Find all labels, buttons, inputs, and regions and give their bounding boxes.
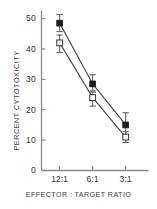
y-tick-label: 0 bbox=[31, 165, 36, 175]
data-point-filled-square bbox=[57, 20, 63, 26]
x-axis-title: EFFECTOR : TARGET RATIO bbox=[0, 190, 157, 199]
y-tick-label: 50 bbox=[26, 13, 36, 23]
x-tick-label: 6:1 bbox=[87, 174, 99, 184]
y-axis-title: PERCENT CYTOTOXICITY bbox=[12, 41, 21, 161]
y-tick-label: 30 bbox=[26, 74, 36, 84]
y-tick-label: 40 bbox=[26, 44, 36, 54]
chart-series bbox=[56, 15, 128, 143]
cytotoxicity-line-chart: 0102030405012:16:13:1 PERCENT CYTOTOXICI… bbox=[0, 0, 157, 209]
y-tick-label: 10 bbox=[26, 135, 36, 145]
data-point-open-square bbox=[57, 40, 63, 46]
x-tick-label: 3:1 bbox=[120, 174, 132, 184]
x-tick-label: 12:1 bbox=[51, 174, 68, 184]
data-point-filled-square bbox=[90, 81, 96, 87]
data-point-open-square bbox=[123, 134, 129, 140]
chart-canvas: 0102030405012:16:13:1 bbox=[0, 0, 157, 209]
data-point-open-square bbox=[90, 95, 96, 101]
series-line bbox=[60, 23, 126, 125]
y-tick-label: 20 bbox=[26, 105, 36, 115]
data-point-filled-square bbox=[123, 122, 129, 128]
